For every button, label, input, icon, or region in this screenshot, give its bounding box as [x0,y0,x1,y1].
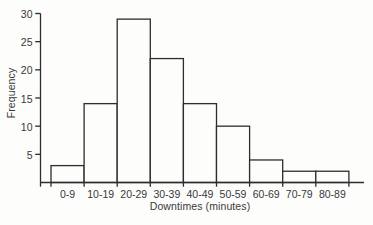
x-category-label-60-69: 60-69 [253,188,280,200]
y-tick-label-30: 30 [21,8,33,20]
y-tick-label-10: 10 [21,121,33,133]
histogram-chart: 510152025300-910-1920-2930-3940-4950-596… [0,0,373,225]
x-category-label-10-19: 10-19 [87,188,114,200]
x-category-label-20-29: 20-29 [120,188,147,200]
y-axis-title: Frequency [5,68,17,119]
bar-50-59 [217,126,250,182]
x-category-label-80-89: 80-89 [319,188,346,200]
x-category-label-30-39: 30-39 [153,188,180,200]
bar-30-39 [150,59,183,183]
x-axis-title: Downtimes (minutes) [27,200,373,212]
bar-10-19 [84,104,117,183]
bar-80-89 [316,171,349,182]
histogram-figure: 510152025300-910-1920-2930-3940-4950-596… [0,0,373,225]
y-tick-label-5: 5 [27,149,33,161]
x-category-label-70-79: 70-79 [286,188,313,200]
bar-20-29 [117,19,150,182]
x-category-label-0-9: 0-9 [60,188,75,200]
bar-40-49 [183,104,216,183]
x-category-label-40-49: 40-49 [187,188,214,200]
y-tick-label-15: 15 [21,93,33,105]
bar-70-79 [283,171,316,182]
bar-0-9 [51,166,84,183]
x-category-label-50-59: 50-59 [220,188,247,200]
y-tick-label-20: 20 [21,64,33,76]
y-tick-label-25: 25 [21,36,33,48]
bar-60-69 [250,160,283,183]
